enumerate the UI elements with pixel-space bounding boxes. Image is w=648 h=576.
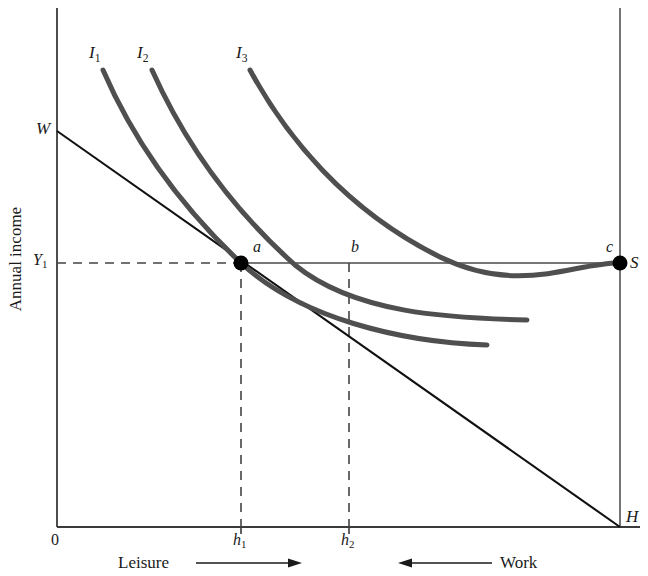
h2-tick-label: h2 — [341, 532, 354, 550]
curve-label-i1: I1 — [89, 44, 100, 64]
budget-constraint-line — [57, 131, 620, 527]
indifference-curve-i2 — [152, 70, 527, 320]
curve-label-i3: I3 — [236, 44, 247, 64]
point-c-marker — [613, 256, 628, 271]
h2-tick-label-name: h — [341, 531, 349, 548]
work-direction-label: Work — [500, 554, 537, 571]
y-axis-label: Annual income — [7, 169, 29, 349]
curve-label-i2-sub: 2 — [143, 52, 149, 65]
income-line-right-label: S — [630, 254, 639, 271]
work-arrow-head — [398, 559, 412, 568]
leisure-direction-label: Leisure — [118, 554, 169, 571]
curve-label-i2: I2 — [137, 44, 148, 64]
figure-container: Annual income I1 I2 I3 W Y1 a b c S H 0 … — [0, 0, 648, 576]
origin-label: 0 — [51, 532, 59, 548]
point-c-label: c — [606, 239, 613, 255]
point-b-label: b — [351, 239, 359, 255]
budget-line-bottom-label: H — [626, 508, 638, 525]
h1-tick-label-sub: 1 — [241, 538, 246, 550]
point-a-label: a — [253, 239, 261, 255]
y1-tick-label: Y1 — [33, 252, 47, 270]
h2-tick-label-sub: 2 — [349, 538, 354, 550]
budget-line-top-label: W — [36, 120, 50, 137]
y1-tick-label-sub: 1 — [42, 258, 47, 270]
curve-label-i3-sub: 3 — [242, 52, 248, 65]
indifference-curve-i3 — [250, 70, 620, 276]
curve-label-i1-sub: 1 — [95, 52, 101, 65]
indifference-curve-i1 — [103, 70, 487, 345]
diagram-svg — [0, 0, 648, 576]
leisure-arrow-head — [288, 559, 302, 568]
h1-tick-label: h1 — [233, 532, 246, 550]
y1-tick-label-name: Y — [33, 251, 42, 268]
h1-tick-label-name: h — [233, 531, 241, 548]
point-a-marker — [234, 256, 249, 271]
